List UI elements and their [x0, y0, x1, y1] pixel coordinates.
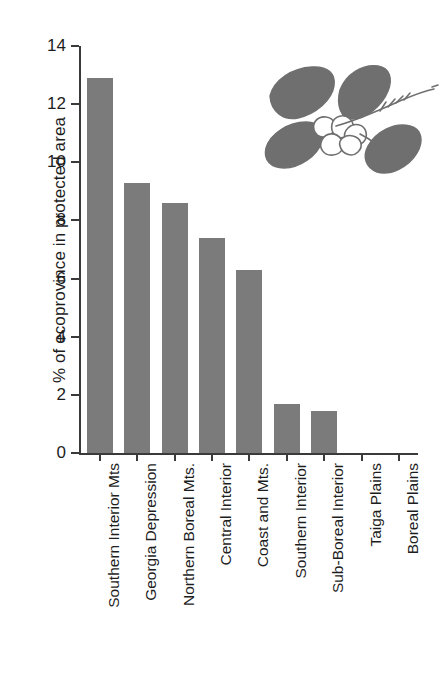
- x-axis-tick: [174, 455, 176, 461]
- y-axis-tick-label: 14: [22, 37, 66, 54]
- bar: [199, 238, 225, 453]
- bar: [236, 270, 262, 453]
- y-axis-tick: [71, 336, 79, 338]
- x-axis-tick-label: Northern Boreal Mts.: [181, 463, 197, 606]
- x-axis-tick: [286, 455, 288, 461]
- y-axis-tick-label: 6: [22, 270, 66, 287]
- x-axis-tick-label: Coast and Mts.: [255, 463, 271, 567]
- x-axis-tick: [248, 455, 250, 461]
- y-axis-tick-label: 0: [22, 444, 66, 461]
- y-axis-tick: [71, 278, 79, 280]
- x-axis-tick-label: Georgia Depression: [143, 463, 159, 601]
- plant-illustration-icon: [262, 62, 442, 188]
- y-axis-tick: [71, 103, 79, 105]
- bar: [87, 78, 113, 453]
- y-axis-tick-label: 4: [22, 328, 66, 345]
- y-axis-tick-label: 12: [22, 95, 66, 112]
- y-axis-tick: [71, 161, 79, 163]
- chart-figure: % of ecoprovince in protected area 02468…: [0, 0, 444, 695]
- bar: [162, 203, 188, 453]
- y-axis-tick-label: 2: [22, 386, 66, 403]
- y-axis-tick-label: 10: [22, 153, 66, 170]
- x-axis-tick: [211, 455, 213, 461]
- x-axis-tick-label: Sub-Boreal Interior: [330, 463, 346, 593]
- y-axis-tick: [71, 219, 79, 221]
- bar: [311, 411, 337, 453]
- y-axis-tick: [71, 45, 79, 47]
- bar: [124, 183, 150, 453]
- y-axis-tick: [71, 452, 79, 454]
- x-axis-tick-label: Taiga Plains: [368, 463, 384, 547]
- x-axis-tick-label: Southern Interior: [293, 463, 309, 578]
- x-axis-tick-label: Southern Interior Mts: [106, 463, 122, 608]
- x-axis-tick: [136, 455, 138, 461]
- x-axis-tick-label: Central Interior: [218, 463, 234, 566]
- y-axis-tick: [71, 394, 79, 396]
- x-axis-tick: [361, 455, 363, 461]
- x-axis-tick: [99, 455, 101, 461]
- y-axis-tick-label: 8: [22, 211, 66, 228]
- bar: [274, 404, 300, 453]
- x-axis-tick: [323, 455, 325, 461]
- x-axis-tick-label: Boreal Plains: [405, 463, 421, 554]
- x-axis-tick: [398, 455, 400, 461]
